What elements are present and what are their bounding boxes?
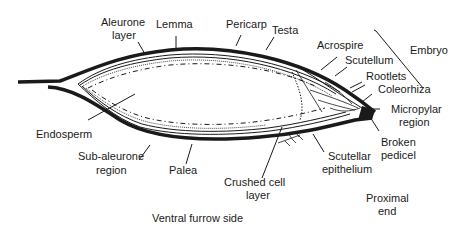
label-pericarp: Pericarp: [226, 18, 267, 30]
label-proximal-end-2: end: [378, 205, 396, 217]
label-scutellar-epithelium-2: epithelium: [322, 163, 372, 175]
label-ventral-furrow-side: Ventral furrow side: [152, 212, 243, 224]
label-micropylar-region: Micropylar: [391, 103, 442, 115]
label-micropylar-region-2: region: [399, 116, 430, 128]
aleurone-line-bottom: [86, 88, 266, 128]
label-proximal-end: Proximal: [366, 192, 409, 204]
label-broken-pedicel: Broken: [381, 136, 416, 148]
label-aleurone-layer-2: layer: [112, 29, 136, 41]
label-crushed-cell-layer: Crushed cell: [224, 176, 285, 188]
label-embryo: Embryo: [410, 44, 448, 56]
testa-line: [80, 57, 336, 94]
label-sub-aleurone-region-2: region: [96, 164, 127, 176]
lemma-outline: [18, 49, 375, 112]
sub-aleurone-line-bottom: [92, 90, 325, 124]
barley-grain-diagram: Aleurone layer Lemma Pericarp Testa Acro…: [0, 0, 462, 228]
label-scutellar-epithelium: Scutellar: [328, 150, 371, 162]
label-crushed-cell-layer-2: layer: [246, 189, 270, 201]
label-coleorhiza: Coleorhiza: [378, 83, 431, 95]
label-acrospire: Acrospire: [317, 39, 363, 51]
label-rootlets: Rootlets: [366, 70, 407, 82]
label-lemma: Lemma: [156, 18, 194, 30]
label-testa: Testa: [272, 24, 299, 36]
label-endosperm: Endosperm: [36, 128, 92, 140]
sub-aleurone-line: [88, 64, 315, 88]
label-aleurone-layer: Aleurone: [101, 16, 145, 28]
label-broken-pedicel-2: pedicel: [381, 149, 416, 161]
label-scutellum: Scutellum: [345, 54, 393, 66]
label-palea: Palea: [169, 164, 198, 176]
label-sub-aleurone-region: Sub-aleurone: [78, 150, 144, 162]
